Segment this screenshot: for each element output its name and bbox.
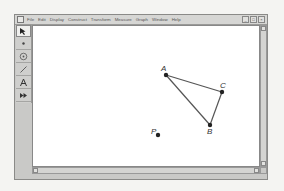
vertical-scrollbar[interactable] — [260, 25, 267, 167]
window-controls: _ □ × — [242, 16, 265, 23]
menu-bar: File Edit Display Construct Transform Me… — [15, 15, 267, 25]
menu-measure[interactable]: Measure — [115, 17, 132, 22]
point-label-A[interactable]: A — [160, 64, 166, 73]
resize-corner[interactable] — [260, 167, 267, 174]
point-C[interactable] — [220, 90, 224, 94]
toolbox — [16, 25, 32, 103]
menu-construct[interactable]: Construct — [68, 17, 87, 22]
point-label-P[interactable]: P — [151, 127, 157, 136]
menu-help[interactable]: Help — [172, 17, 181, 22]
segment-AC[interactable] — [166, 75, 222, 92]
menu-file[interactable]: File — [27, 17, 34, 22]
geometry-drawing: ACBP — [32, 25, 260, 167]
custom-tool[interactable] — [16, 89, 31, 102]
segment-BA[interactable] — [166, 75, 210, 125]
document-icon[interactable] — [17, 16, 24, 23]
point-A[interactable] — [164, 73, 168, 77]
menu-display[interactable]: Display — [50, 17, 64, 22]
arrow-selection-tool[interactable] — [16, 25, 31, 37]
menu-edit[interactable]: Edit — [38, 17, 46, 22]
point-label-C[interactable]: C — [220, 81, 226, 90]
minimize-button[interactable]: _ — [242, 16, 249, 23]
circle-icon — [19, 52, 28, 61]
menu-graph[interactable]: Graph — [136, 17, 148, 22]
point-tool[interactable] — [16, 37, 31, 50]
horizontal-scrollbar[interactable] — [32, 167, 260, 174]
sketch-canvas[interactable]: ACBP — [32, 25, 260, 167]
menu-transform[interactable]: Transform — [91, 17, 111, 22]
triangle-segments[interactable] — [166, 75, 222, 125]
text-icon — [19, 78, 28, 87]
restore-button[interactable]: □ — [250, 16, 257, 23]
menu-window[interactable]: Window — [152, 17, 168, 22]
segment-icon — [19, 65, 28, 74]
compass-tool[interactable] — [16, 50, 31, 63]
arrow-icon — [19, 27, 28, 36]
scroll-down-button[interactable] — [261, 161, 266, 166]
custom-tools-icon — [19, 91, 28, 100]
scroll-left-button[interactable] — [33, 168, 38, 173]
point-icon — [19, 39, 28, 48]
straightedge-tool[interactable] — [16, 63, 31, 76]
point-P[interactable] — [156, 133, 160, 137]
close-button[interactable]: × — [258, 16, 265, 23]
point-label-B[interactable]: B — [207, 127, 213, 136]
scroll-right-button[interactable] — [254, 168, 259, 173]
segment-CB[interactable] — [210, 92, 222, 125]
text-tool[interactable] — [16, 76, 31, 89]
scroll-up-button[interactable] — [261, 26, 266, 31]
sketch-window: File Edit Display Construct Transform Me… — [14, 14, 268, 180]
